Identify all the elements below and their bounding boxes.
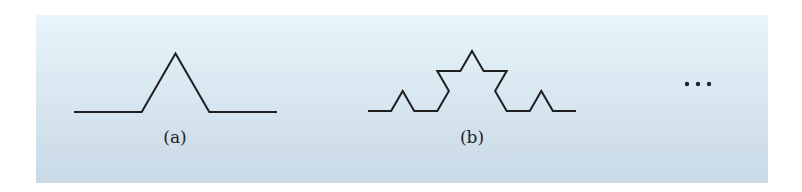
koch-curve-figure: (a) (b) bbox=[0, 0, 802, 192]
koch-curve-iteration-2 bbox=[368, 51, 576, 111]
ellipsis-dot bbox=[707, 82, 711, 86]
koch-curve-iteration-1 bbox=[74, 53, 277, 112]
ellipsis-continuation bbox=[685, 82, 711, 86]
label-b: (b) bbox=[460, 127, 484, 147]
ellipsis-dot bbox=[685, 82, 689, 86]
ellipsis-dot bbox=[696, 82, 700, 86]
label-a: (a) bbox=[163, 127, 186, 147]
